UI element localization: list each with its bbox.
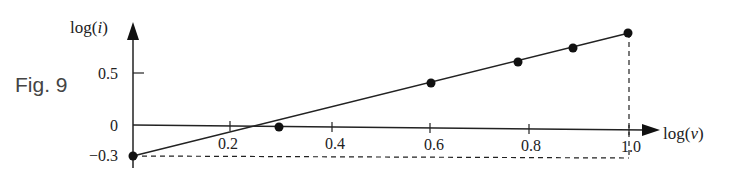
x-tick-label-0.8: 0.8: [521, 137, 541, 154]
x-axis-arrow-icon: [642, 124, 660, 136]
x-tick-label-1.0: 1.0: [621, 138, 641, 155]
data-point: [129, 152, 138, 161]
data-point: [427, 79, 436, 88]
y-axis-arrow-icon: [127, 22, 139, 40]
data-point: [275, 123, 284, 132]
fit-line: [133, 33, 629, 156]
x-tick-label-0.6: 0.6: [424, 136, 444, 153]
x-tick-label-0.4: 0.4: [325, 135, 345, 152]
x-axis-label: log(v): [663, 124, 704, 143]
y-tick-label-0.5: 0.5: [98, 65, 118, 82]
data-point: [514, 58, 523, 67]
figure-label: Fig. 9: [15, 73, 68, 96]
y-tick-label-0: 0: [110, 117, 118, 134]
x-tick-label-0.2: 0.2: [218, 135, 238, 152]
y-tick-label-neg0.3: −0.3: [89, 147, 118, 164]
y-axis-label: log(i): [70, 18, 108, 37]
chart-canvas: Fig. 9 log(i) log(v) 0.5 0 −0.3 0.2 0.4 …: [0, 0, 729, 191]
data-point: [569, 44, 578, 53]
data-point: [624, 29, 633, 38]
dashed-guide-horizontal: [133, 156, 629, 158]
x-axis: [133, 125, 645, 130]
